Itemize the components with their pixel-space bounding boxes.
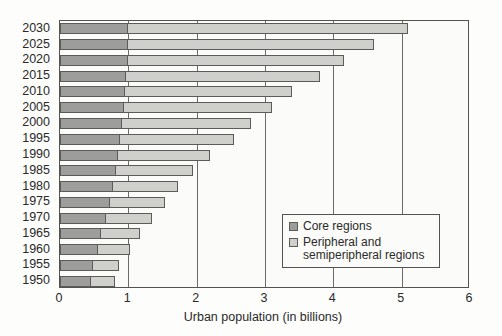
legend-entry-core: Core regions xyxy=(289,220,433,233)
bar-row xyxy=(60,118,251,129)
x-axis-tick-2: 2 xyxy=(192,291,199,305)
bar-segment-peripheral xyxy=(92,260,120,271)
x-axis-tick-4: 4 xyxy=(329,291,336,305)
bar-row xyxy=(60,165,193,176)
x-axis-tick-5: 5 xyxy=(397,291,404,305)
legend-swatch-core-icon xyxy=(289,222,298,231)
x-axis-tick-6: 6 xyxy=(466,291,473,305)
bar-segment-peripheral xyxy=(127,55,344,66)
bar-row xyxy=(60,150,210,161)
y-axis-label-1995: 1995 xyxy=(22,132,50,144)
bar-row xyxy=(60,181,178,192)
bar-segment-peripheral xyxy=(127,23,408,34)
bar-row xyxy=(60,213,152,224)
bar-segment-peripheral xyxy=(90,276,115,287)
bar-segment-peripheral xyxy=(115,165,193,176)
bar-segment-core xyxy=(60,150,118,161)
y-axis-label-1970: 1970 xyxy=(22,211,50,223)
bar-row xyxy=(60,276,115,287)
urban-population-stacked-bar-chart: 2030202520202015201020052000199519901985… xyxy=(0,0,502,336)
bar-segment-peripheral xyxy=(123,102,272,113)
bar-row xyxy=(60,39,374,50)
bar-row xyxy=(60,55,344,66)
bar-row xyxy=(60,260,119,271)
bar-segment-core xyxy=(60,165,116,176)
y-axis-label-1950: 1950 xyxy=(22,274,50,286)
x-axis-tick-0: 0 xyxy=(56,291,63,305)
y-axis-label-1965: 1965 xyxy=(22,227,50,239)
bar-segment-peripheral xyxy=(125,71,319,82)
bar-segment-peripheral xyxy=(119,134,234,145)
plot-area: Core regions Peripheral andsemiperiphera… xyxy=(59,20,469,288)
bar-segment-peripheral xyxy=(112,181,178,192)
y-axis-label-2025: 2025 xyxy=(22,38,50,50)
bar-row xyxy=(60,197,165,208)
bar-segment-core xyxy=(60,71,126,82)
bar-row xyxy=(60,228,140,239)
chart-legend: Core regions Peripheral andsemiperiphera… xyxy=(282,214,440,268)
bar-segment-peripheral xyxy=(97,244,130,255)
y-axis-label-1980: 1980 xyxy=(22,180,50,192)
bar-segment-core xyxy=(60,260,93,271)
bar-segment-peripheral xyxy=(127,39,374,50)
bar-segment-peripheral xyxy=(121,118,252,129)
bar-segment-core xyxy=(60,102,124,113)
bar-segment-core xyxy=(60,39,128,50)
bar-segment-core xyxy=(60,244,98,255)
bar-segment-peripheral xyxy=(124,86,292,97)
legend-swatch-peripheral-icon xyxy=(289,238,298,247)
bar-segment-core xyxy=(60,86,125,97)
bar-segment-core xyxy=(60,23,128,34)
bar-segment-peripheral xyxy=(105,213,152,224)
bar-row xyxy=(60,71,320,82)
bar-segment-peripheral xyxy=(117,150,210,161)
bar-row xyxy=(60,23,408,34)
bar-segment-core xyxy=(60,213,106,224)
bar-segment-core xyxy=(60,197,110,208)
x-axis-tick-labels: 0123456 xyxy=(0,291,502,309)
bar-segment-peripheral xyxy=(100,228,140,239)
bar-segment-core xyxy=(60,228,101,239)
legend-label-core: Core regions xyxy=(303,220,372,233)
y-axis-label-2010: 2010 xyxy=(22,85,50,97)
bar-row xyxy=(60,134,234,145)
bar-row xyxy=(60,102,272,113)
bar-segment-core xyxy=(60,118,122,129)
y-axis-label-2020: 2020 xyxy=(22,53,50,65)
y-axis-label-1955: 1955 xyxy=(22,258,50,270)
y-axis-label-1985: 1985 xyxy=(22,164,50,176)
x-axis-tick-1: 1 xyxy=(124,291,131,305)
y-axis-label-1975: 1975 xyxy=(22,195,50,207)
y-axis-label-2000: 2000 xyxy=(22,116,50,128)
legend-entry-peripheral: Peripheral andsemiperipheral regions xyxy=(289,236,433,262)
bar-segment-core xyxy=(60,181,113,192)
y-axis-label-2030: 2030 xyxy=(22,22,50,34)
bar-segment-peripheral xyxy=(109,197,165,208)
legend-label-peripheral: Peripheral andsemiperipheral regions xyxy=(303,236,424,262)
y-axis-labels: 2030202520202015201020052000199519901985… xyxy=(0,20,55,288)
y-axis-label-2005: 2005 xyxy=(22,101,50,113)
bar-segment-core xyxy=(60,134,120,145)
y-axis-label-2015: 2015 xyxy=(22,69,50,81)
bar-segment-core xyxy=(60,276,91,287)
y-axis-label-1990: 1990 xyxy=(22,148,50,160)
x-axis-tick-3: 3 xyxy=(261,291,268,305)
y-axis-label-1960: 1960 xyxy=(22,243,50,255)
bar-row xyxy=(60,244,130,255)
bar-segment-core xyxy=(60,55,128,66)
bar-row xyxy=(60,86,292,97)
x-axis-title: Urban population (in billions) xyxy=(0,310,502,324)
